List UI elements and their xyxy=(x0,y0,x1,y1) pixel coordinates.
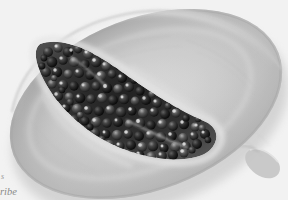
papaya-illustration xyxy=(0,0,288,200)
papaya-photograph xyxy=(0,0,288,200)
film-grain xyxy=(0,0,288,200)
image-canvas: s ribe xyxy=(0,0,288,200)
